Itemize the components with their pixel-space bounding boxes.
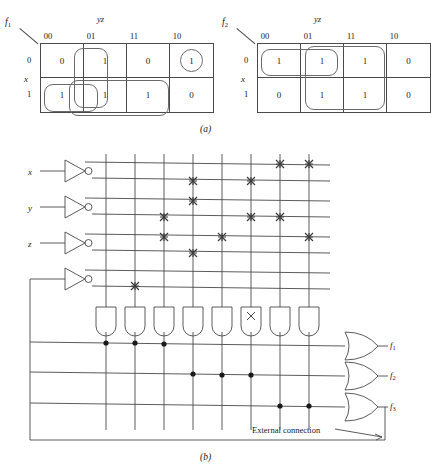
kmap-f2-col-header-3: 10 [374, 31, 414, 41]
pla-schematic-svg [0, 140, 418, 460]
kmap-f2-row-header-0: 0 [241, 55, 251, 65]
kmap-f2-title: f2 [222, 16, 228, 28]
unused-and-gate-mark [247, 312, 255, 320]
kmap-f1-row-variable: x [24, 74, 28, 84]
kmap-f2-cell-r1c3: 0 [387, 78, 430, 112]
kmap-f1-col-header-1: 01 [71, 31, 111, 41]
kmap-f2: f2 yz 00 01 11 10 0 1 x 1 1 1 0 0 1 1 0 [209, 0, 418, 135]
kmap-f2-cell-r0c3: 0 [387, 44, 430, 78]
kmap-f2-col-header-2: 11 [331, 31, 371, 41]
figure-label-b: (b) [200, 452, 211, 462]
kmap-f2-row-variable: x [241, 74, 245, 84]
kmap-f1-col-header-3: 10 [157, 31, 197, 41]
kmap-f1-row-header-1: 1 [24, 89, 34, 99]
kmap-f1-group-row1-left [44, 84, 98, 112]
kmap-f1-title: f1 [5, 16, 11, 28]
kmap-f1-col-variable: yz [97, 14, 104, 24]
kmap-f1: f1 yz 00 01 11 10 0 1 x 0 1 0 1 1 1 1 0 [0, 0, 209, 135]
kmap-f1-col-header-2: 11 [114, 31, 154, 41]
and-gate-row [96, 307, 319, 336]
kmap-f2-group-columns-01-11 [305, 46, 385, 110]
or-gate-column [345, 332, 388, 421]
kmap-f2-col-header-1: 01 [288, 31, 328, 41]
kmap-f2-cell-r1c0: 0 [258, 78, 301, 112]
external-connection-arrow [335, 429, 382, 440]
figure-label-a: (a) [200, 124, 211, 134]
kmap-f2-col-variable: yz [314, 14, 321, 24]
kmap-f2-col-header-0: 00 [245, 31, 285, 41]
kmap-f1-group-cell-0-10 [180, 49, 203, 72]
kmap-f1-cell-r0c2: 0 [127, 44, 170, 78]
kmap-f1-cell-r1c3: 0 [170, 78, 213, 112]
kmap-f1-col-header-0: 00 [28, 31, 68, 41]
kmap-f1-row-header-0: 0 [24, 55, 34, 65]
pla-diagram: x y z f1 f2 f3 External connection [0, 140, 418, 460]
external-feedback-path [30, 279, 385, 440]
kmap-f2-row-header-1: 1 [241, 89, 251, 99]
